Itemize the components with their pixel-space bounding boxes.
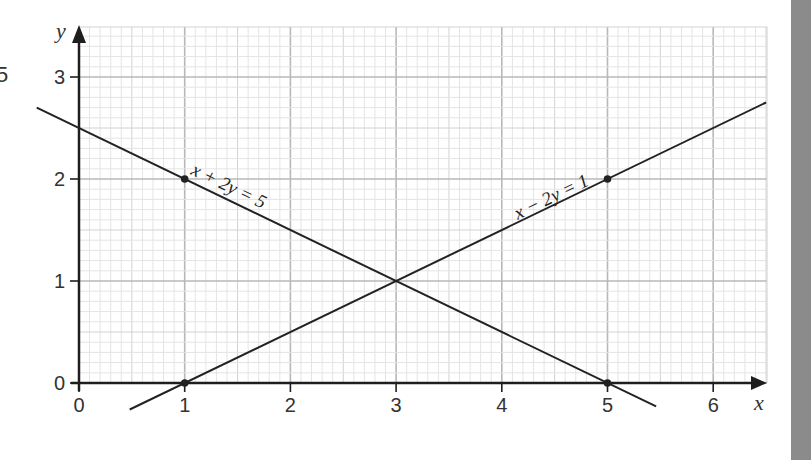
page-edge-bar <box>791 0 811 460</box>
x-tick-label: 2 <box>285 394 296 416</box>
line-label-x-minus-2y-eq-1: x − 2y = 1 <box>509 169 592 223</box>
x-tick-label: 6 <box>708 394 719 416</box>
x-ticks: 0123456 <box>73 383 718 416</box>
y-tick-label: 2 <box>54 168 65 190</box>
x-tick-label: 5 <box>602 394 613 416</box>
y-ticks: 0123 <box>54 66 79 394</box>
x-tick-label: 3 <box>391 394 402 416</box>
y-axis-arrow-icon <box>72 25 86 43</box>
x-axis-title: x <box>753 390 764 415</box>
data-point <box>604 379 612 387</box>
grid <box>79 27 767 383</box>
x-tick-label: 4 <box>496 394 507 416</box>
x-tick-label: 0 <box>73 394 84 416</box>
chart-area: 0123456 0123 x y x + 2y = 5 x − 2y = 1 <box>0 0 811 460</box>
y-axis-title: y <box>54 18 66 43</box>
y-tick-label: 0 <box>54 372 65 394</box>
y-tick-label: 3 <box>54 66 65 88</box>
data-point <box>181 175 189 183</box>
x-tick-label: 1 <box>179 394 190 416</box>
x-axis-arrow-icon <box>751 376 767 390</box>
data-point <box>181 379 189 387</box>
series-line-1 <box>37 108 656 407</box>
y-tick-label: 1 <box>54 270 65 292</box>
data-point <box>604 175 612 183</box>
axes <box>71 25 767 391</box>
